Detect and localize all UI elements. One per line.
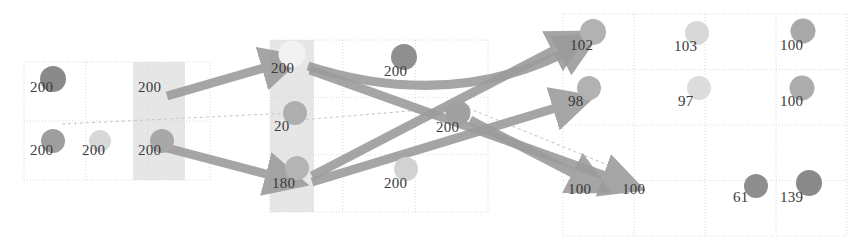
node-n17[interactable] xyxy=(790,76,815,101)
node-n11[interactable] xyxy=(446,101,471,126)
node-n3[interactable] xyxy=(89,130,111,152)
node-n20[interactable] xyxy=(744,174,768,198)
node-n15[interactable] xyxy=(687,76,711,100)
diagram-canvas: 2002002002002002002018020020020010298103… xyxy=(0,0,857,248)
node-n14[interactable] xyxy=(685,21,709,45)
node-n10[interactable] xyxy=(394,157,418,181)
diagram-svg xyxy=(0,0,857,248)
node-n13[interactable] xyxy=(577,76,601,100)
node-n2[interactable] xyxy=(41,129,65,153)
node-n12[interactable] xyxy=(580,19,606,45)
node-n9[interactable] xyxy=(391,44,417,70)
node-n1[interactable] xyxy=(40,66,66,92)
node-n7[interactable] xyxy=(283,101,307,125)
node-n8[interactable] xyxy=(285,156,309,180)
node-n21[interactable] xyxy=(796,170,822,196)
node-n16[interactable] xyxy=(791,19,816,44)
node-n5[interactable] xyxy=(150,129,174,153)
node-n6[interactable] xyxy=(279,41,306,68)
